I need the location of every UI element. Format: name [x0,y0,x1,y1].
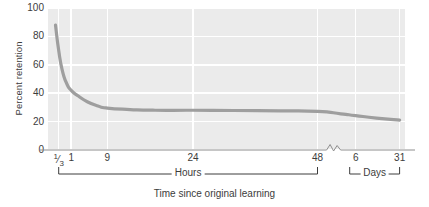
forgetting-curve-figure: Percent retention 100806040200 1⁄3192448… [0,0,429,207]
y-tick-label: 40 [18,88,44,98]
bracket-label: Days [360,168,389,178]
x-tick-label: 9 [104,153,110,163]
plot-area [48,8,405,150]
y-tick-label: 100 [18,3,44,13]
y-tick-label: 80 [18,31,44,41]
x-tick-label: 48 [312,153,323,163]
axis-group-brackets [40,165,415,185]
x-tick-label: 6 [353,153,359,163]
retention-curve [48,8,405,150]
x-tick-label: 24 [187,153,198,163]
chart-caption: Time since original learning [0,188,429,199]
x-tick-label: 31 [394,153,405,163]
y-tick-label: 20 [18,117,44,127]
y-tick-label: 60 [18,60,44,70]
x-tick-label: 1 [68,153,74,163]
bracket-label: Hours [172,168,205,178]
